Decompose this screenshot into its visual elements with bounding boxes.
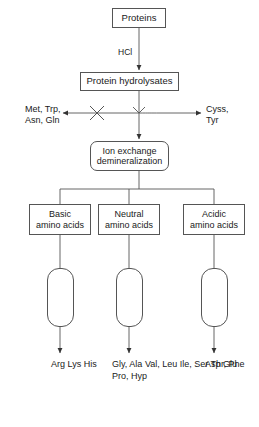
node-neutral-line-2: amino acids bbox=[105, 220, 153, 230]
output-basic-amino-acids: Arg Lys His bbox=[51, 359, 97, 371]
node-ion-exchange-line-2: demineralization bbox=[97, 156, 163, 166]
label-retained-line-1: Cyss, bbox=[206, 104, 229, 115]
node-basic-line-1: Basic bbox=[49, 209, 71, 219]
edge-label-hcl: HCl bbox=[118, 47, 132, 58]
output-neutral-line-3: Ile, Ser bbox=[180, 359, 209, 369]
node-proteins-label: Proteins bbox=[122, 13, 157, 24]
node-proteins[interactable]: Proteins bbox=[112, 8, 166, 28]
node-neutral-amino-acids[interactable]: Neutral amino acids bbox=[98, 204, 160, 235]
column-vessel-basic[interactable] bbox=[47, 268, 74, 327]
node-neutral-line-1: Neutral bbox=[114, 209, 143, 219]
node-ion-exchange-demineralization[interactable]: Ion exchange demineralization bbox=[90, 141, 169, 171]
node-acidic-amino-acids[interactable]: Acidic amino acids bbox=[183, 204, 245, 235]
label-retained-amino-acids: Cyss, Tyr bbox=[206, 104, 229, 127]
output-basic-line-3: His bbox=[84, 359, 97, 369]
node-basic-amino-acids[interactable]: Basic amino acids bbox=[29, 204, 91, 235]
node-acidic-line-1: Acidic bbox=[202, 209, 226, 219]
output-acidic-line-2: Glu bbox=[223, 359, 237, 369]
output-acidic-amino-acids: Asp Glu bbox=[205, 359, 237, 371]
node-protein-hydrolysates-label: Protein hydrolysates bbox=[86, 76, 172, 87]
label-retained-line-2: Tyr bbox=[206, 115, 229, 126]
node-ion-exchange-line-1: Ion exchange bbox=[102, 146, 156, 156]
column-vessel-neutral[interactable] bbox=[116, 268, 143, 327]
output-neutral-line-1: Gly, Ala bbox=[112, 359, 142, 369]
node-acidic-line-2: amino acids bbox=[190, 220, 238, 230]
node-protein-hydrolysates[interactable]: Protein hydrolysates bbox=[80, 72, 179, 91]
column-vessel-acidic[interactable] bbox=[201, 268, 228, 327]
output-basic-line-2: Lys bbox=[68, 359, 82, 369]
node-basic-line-2: amino acids bbox=[36, 220, 84, 230]
label-lost-line-2: Asn, Gln bbox=[25, 115, 61, 126]
label-lost-amino-acids: Met, Trp, Asn, Gln bbox=[25, 104, 61, 127]
output-basic-line-1: Arg bbox=[51, 359, 65, 369]
label-lost-line-1: Met, Trp, bbox=[25, 104, 61, 115]
output-acidic-line-1: Asp bbox=[205, 359, 221, 369]
output-neutral-line-5: Pro, Hyp bbox=[112, 371, 147, 381]
edge-label-hcl-text: HCl bbox=[118, 47, 132, 58]
output-neutral-line-2: Val, Leu bbox=[145, 359, 177, 369]
flowchart-canvas: Proteins HCl Protein hydrolysates Met, T… bbox=[0, 0, 259, 427]
